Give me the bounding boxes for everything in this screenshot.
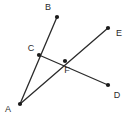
point-e	[106, 26, 110, 30]
point-label-e: E	[116, 28, 122, 38]
geometry-canvas: ABCDEF	[0, 0, 132, 121]
point-label-d: D	[114, 90, 121, 100]
geometry-figure: ABCDEF	[0, 0, 132, 121]
point-f	[63, 59, 67, 63]
points-layer	[18, 15, 110, 106]
point-c	[37, 53, 41, 57]
point-a	[18, 102, 22, 106]
point-label-a: A	[5, 104, 11, 114]
point-label-b: B	[45, 2, 51, 12]
segment-cd	[39, 55, 108, 85]
point-b	[55, 15, 59, 19]
point-label-f: F	[64, 65, 70, 75]
point-d	[106, 83, 110, 87]
point-label-c: C	[28, 43, 35, 53]
